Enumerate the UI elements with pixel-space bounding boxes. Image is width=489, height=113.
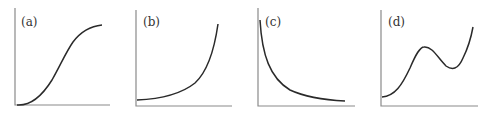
panel-a-sigmoid-curve	[17, 25, 102, 105]
panel-d-cubic-curve	[382, 27, 473, 97]
panels-canvas	[0, 0, 489, 113]
panel-c-decay-curve	[260, 20, 345, 101]
panel-a-label: (a)	[21, 15, 38, 29]
panel-d-label: (d)	[388, 15, 405, 29]
panel-b-exponential-curve	[137, 24, 218, 100]
panel-b-label: (b)	[143, 15, 160, 29]
panel-c-label: (c)	[265, 15, 281, 29]
